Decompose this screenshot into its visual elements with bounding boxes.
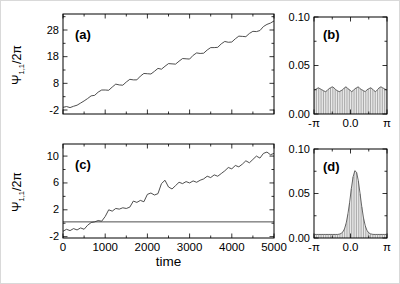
x-tick-label: 0.0	[343, 117, 359, 129]
panel-b-chart: 0.000.050.10-π0.0π(b)	[281, 1, 400, 141]
panel-letter-label: (b)	[323, 27, 340, 42]
y-tick-label: 0.10	[289, 11, 310, 23]
x-tick-label: -π	[308, 241, 320, 253]
x-tick-label: π	[383, 117, 391, 129]
y-tick-label: 0.00	[289, 108, 310, 120]
panel-letter-label: (d)	[323, 159, 340, 174]
y-tick-label: 28	[47, 24, 59, 36]
psi-symbol: Ψ	[10, 202, 24, 212]
psi-subscript: 1,1	[17, 64, 26, 74]
y-tick-label: 0.10	[289, 143, 310, 155]
panel-letter-label: (c)	[75, 157, 91, 172]
y-tick-label: 18	[47, 50, 59, 62]
psi-denominator: /2π	[10, 45, 24, 64]
y-tick-label: 2	[53, 203, 59, 215]
histogram-envelope	[315, 171, 386, 235]
phase-winding-trace-c	[63, 152, 274, 231]
y-tick-label: 10	[47, 150, 59, 162]
y-tick-label: -2	[49, 230, 59, 242]
x-tick-label: 1000	[92, 241, 118, 253]
x-tick-label: 4000	[219, 241, 245, 253]
psi-subscript: 1,1	[17, 191, 26, 201]
x-tick-label: 2000	[135, 241, 161, 253]
y-tick-label: 0.05	[289, 187, 310, 199]
x-axis-title: time	[156, 254, 182, 269]
panel-d-chart: 0.000.050.10-π0.0π(d)	[281, 141, 400, 284]
x-tick-label: 0	[60, 241, 66, 253]
x-tick-label: 0.0	[343, 241, 359, 253]
histogram-envelope	[315, 87, 386, 92]
panel-c-chart: -22610010002000300040005000time(c)	[1, 141, 281, 284]
y-axis-title-a: Ψ1,1/2π	[10, 45, 27, 85]
y-tick-label: -2	[49, 104, 59, 116]
y-tick-label: 0.05	[289, 59, 310, 71]
y-tick-label: 0.00	[289, 232, 310, 244]
psi-denominator: /2π	[10, 172, 24, 191]
four-panel-figure: -281828(a) 0.000.050.10-π0.0π(b) -226100…	[0, 0, 400, 284]
panel-a-chart: -281828(a)	[1, 1, 281, 141]
y-tick-label: 8	[53, 77, 59, 89]
phase-winding-trace-a	[63, 21, 274, 108]
y-tick-label: 6	[53, 176, 59, 188]
psi-symbol: Ψ	[10, 75, 24, 85]
axes-frame	[63, 144, 274, 238]
x-tick-label: 3000	[177, 241, 203, 253]
x-tick-label: -π	[308, 117, 320, 129]
panel-letter-label: (a)	[75, 27, 91, 42]
y-axis-title-c: Ψ1,1/2π	[10, 172, 27, 212]
x-tick-label: π	[383, 241, 391, 253]
